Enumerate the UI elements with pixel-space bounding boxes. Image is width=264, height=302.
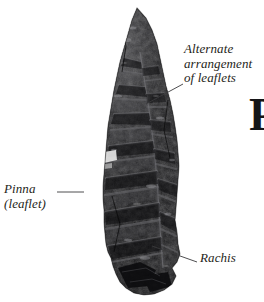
figure-canvas: Alternate arrangement of leaflets Pinna … — [0, 0, 264, 302]
annotation-line: Alternate — [184, 42, 252, 57]
annotation-pinna: Pinna (leaflet) — [4, 182, 46, 211]
annotation-rachis: Rachis — [200, 251, 236, 266]
annotation-alternate-arrangement: Alternate arrangement of leaflets — [184, 42, 252, 86]
annotation-line: Pinna — [4, 182, 46, 197]
annotation-line: Rachis — [200, 250, 236, 265]
annotation-line: (leaflet) — [4, 197, 46, 212]
annotation-line: arrangement — [184, 57, 252, 72]
cropped-edge-letter: P — [249, 92, 264, 140]
rock-matrix — [95, 0, 190, 302]
annotation-line: of leaflets — [184, 71, 252, 86]
